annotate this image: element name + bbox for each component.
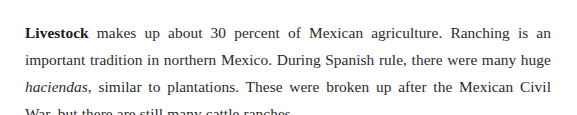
italic-term-haciendas: haciendas [25,78,88,95]
document-page: Livestock makes up about 30 percent of M… [0,0,577,115]
body-paragraph: Livestock makes up about 30 percent of M… [25,19,551,115]
paragraph-text-part-2: , similar to plantations. These were bro… [25,78,551,115]
paragraph-text-part-1: makes up about 30 percent of Mexican agr… [25,24,551,68]
lead-term-livestock: Livestock [25,24,89,41]
